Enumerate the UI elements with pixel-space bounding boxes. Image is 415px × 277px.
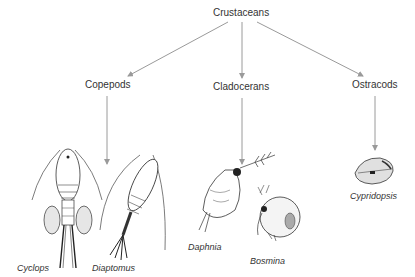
group-label-copepods: Copepods	[85, 79, 131, 90]
group-label-ostracods: Ostracods	[352, 79, 398, 90]
species-label-cyclops: Cyclops	[17, 263, 49, 273]
species-label-daphnia: Daphnia	[188, 242, 222, 252]
root-label-crustaceans: Crustaceans	[213, 7, 269, 18]
arrow-to-ostracods	[257, 22, 363, 76]
group-label-cladocerans: Cladocerans	[213, 81, 269, 92]
diaptomus-illustration	[95, 150, 170, 265]
bosmina-illustration	[250, 185, 310, 245]
species-label-cypridopsis: Cypridopsis	[350, 191, 397, 201]
cyclops-illustration	[30, 130, 105, 270]
arrow-to-copepods	[128, 22, 228, 76]
species-label-diaptomus: Diaptomus	[92, 263, 135, 273]
cypridopsis-illustration	[352, 155, 397, 187]
species-label-bosmina: Bosmina	[250, 256, 285, 266]
